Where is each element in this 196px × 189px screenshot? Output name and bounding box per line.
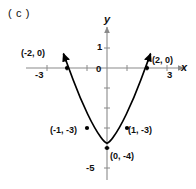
y-tick-label-1: 1 — [97, 42, 102, 52]
y-tick-label-neg5: -5 — [86, 163, 94, 173]
origin-label: 0 — [96, 64, 101, 74]
point-label-1-neg3: (1, -3) — [128, 126, 152, 135]
point-label-2-0: (2, 0) — [152, 56, 173, 65]
y-axis-label: y — [104, 14, 110, 25]
panel-label: ( c ) — [8, 8, 30, 19]
curve-arrow-left — [63, 54, 66, 62]
curve-arrow-right — [148, 54, 151, 62]
plot-canvas — [0, 0, 196, 189]
parabola-figure: ( c ) y x -3 3 1 0 -5 (-2, 0) (2, 0) (-1… — [0, 0, 196, 189]
point-marker-0-neg4 — [105, 146, 109, 150]
point-marker-neg1-neg3 — [85, 126, 89, 130]
point-label-neg1-neg3: (-1, -3) — [50, 126, 77, 135]
x-tick-label-neg3: -3 — [35, 70, 43, 80]
point-label-0-neg4: (0, -4) — [110, 152, 134, 161]
point-marker-neg2-0 — [65, 66, 69, 70]
point-label-neg2-0: (-2, 0) — [21, 49, 45, 58]
x-axis-label: x — [181, 62, 187, 73]
x-tick-label-3: 3 — [167, 70, 172, 80]
point-marker-2-0 — [145, 66, 149, 70]
